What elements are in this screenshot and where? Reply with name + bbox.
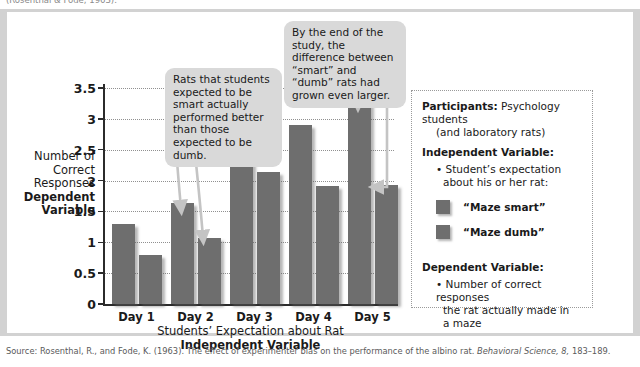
y-axis-tick xyxy=(98,87,105,88)
x-label-day-1: Day 1 xyxy=(118,310,154,324)
bar-day-4-maze-dumb xyxy=(316,186,339,304)
bar-day-3-maze-smart xyxy=(230,144,253,304)
figure-frame: Number of Correct Responses Dependent Va… xyxy=(0,9,640,336)
y-axis-tick xyxy=(98,272,105,273)
figure-inner: Number of Correct Responses Dependent Va… xyxy=(7,12,633,333)
independent-variable-block: Independent Variable: • Student’s expect… xyxy=(422,146,584,189)
x-label-day-2: Day 2 xyxy=(177,310,213,324)
y-axis-tick xyxy=(98,180,105,181)
bar-day-5-maze-smart xyxy=(348,102,371,304)
source-citation: Source: Rosenthal, R., and Fode, K. (196… xyxy=(6,346,636,356)
bar-day-3-maze-dumb xyxy=(257,172,280,305)
bar-day-5-maze-dumb xyxy=(375,185,398,304)
dependent-variable-block: Dependent Variable: • Number of correct … xyxy=(422,261,584,330)
y-axis-title-line-3: Responses xyxy=(15,177,95,191)
y-axis-tick xyxy=(98,303,105,304)
y-tick-label: 3.5 xyxy=(74,81,96,96)
callout-left: Rats that students expected to be smart … xyxy=(165,68,282,167)
independent-variable-label: Independent Variable: xyxy=(422,146,554,158)
legend-swatch-maze-dumb xyxy=(436,225,450,239)
x-label-day-4: Day 4 xyxy=(295,310,331,324)
iv-bullet-line-1: • Student’s expectation xyxy=(422,163,584,176)
y-tick-label: 2 xyxy=(87,173,96,188)
legend-label-maze-dumb: “Maze dumb” xyxy=(463,226,545,239)
x-label-day-3: Day 3 xyxy=(236,310,272,324)
dv-bullet-line-3: a maze xyxy=(422,317,584,330)
y-tick-label: 3 xyxy=(87,111,96,126)
bar-day-2-maze-dumb xyxy=(198,238,221,305)
y-axis-title-bold-1: Dependent xyxy=(15,191,95,205)
y-axis-title-line-2: Correct xyxy=(15,164,95,178)
bar-day-4-maze-smart xyxy=(289,125,312,304)
x-label-day-5: Day 5 xyxy=(354,310,390,324)
callout-right: By the end of the study, the difference … xyxy=(284,21,406,108)
legend-item-maze-smart: “Maze smart” xyxy=(436,200,584,214)
top-caption-strip: (Rosenthal & Fode, 1963). xyxy=(0,0,640,9)
dv-bullet-line-1: • Number of correct responses xyxy=(422,278,584,304)
bar-day-2-maze-smart xyxy=(171,203,194,305)
dependent-variable-label: Dependent Variable: xyxy=(422,261,544,273)
participants-value-2: (and laboratory rats) xyxy=(422,126,584,139)
source-prefix: Source: Rosenthal, R., and Fode, K. (196… xyxy=(6,346,477,356)
y-tick-label: 0.5 xyxy=(74,266,96,281)
iv-bullet-line-2: about his or her rat: xyxy=(422,176,584,189)
participants-label: Participants: xyxy=(422,100,498,112)
legend-label-maze-smart: “Maze smart” xyxy=(463,201,546,214)
top-caption-text: (Rosenthal & Fode, 1963). xyxy=(6,0,117,5)
x-axis-title-line-1: Students’ Expectation about Rat xyxy=(103,324,398,338)
y-tick-label: 1.5 xyxy=(74,204,96,219)
y-axis-tick xyxy=(98,242,105,243)
legend-item-maze-dumb: “Maze dumb” xyxy=(436,225,584,239)
info-panel: Participants: Psychology students (and l… xyxy=(411,90,593,308)
y-axis-tick xyxy=(98,149,105,150)
y-tick-label: 1 xyxy=(87,235,96,250)
dv-bullet-line-2: the rat actually made in xyxy=(422,304,584,317)
bar-day-1-maze-dumb xyxy=(139,255,162,304)
y-tick-label: 2.5 xyxy=(74,142,96,157)
y-axis-tick xyxy=(98,211,105,212)
y-tick-label: 0 xyxy=(87,297,96,312)
source-journal: Behavioral Science, 8, xyxy=(477,346,569,356)
legend-swatch-maze-smart xyxy=(436,200,450,214)
participants-row: Participants: Psychology students (and l… xyxy=(422,100,584,139)
bar-day-1-maze-smart xyxy=(112,224,135,304)
source-suffix: 183–189. xyxy=(569,346,610,356)
y-axis-tick xyxy=(98,118,105,119)
